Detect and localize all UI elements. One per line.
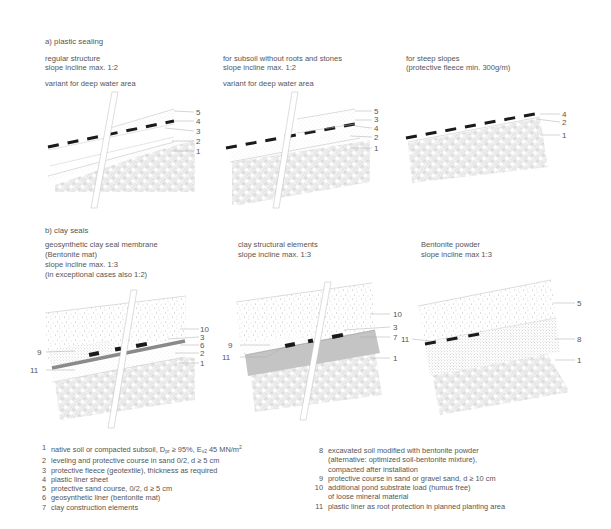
label-3: 3	[196, 127, 201, 136]
legend-right: 8excavated soil modified with bentonite …	[313, 446, 505, 511]
label-9: 9	[37, 348, 42, 357]
legend-item-5: 5protective sand course, 0/2, d ≥ 5 cm	[36, 484, 242, 493]
label-10: 10	[393, 310, 402, 319]
legend-left: 1 native soil or compacted subsoil, Dpr …	[36, 443, 242, 512]
panel-b1-drawing: 10 3 6 2 1 9 11	[30, 290, 209, 428]
label-2: 2	[374, 133, 379, 142]
label-3: 3	[393, 323, 398, 332]
label-1: 1	[562, 131, 567, 140]
label-11: 11	[222, 353, 231, 362]
label-1: 1	[393, 354, 398, 363]
legend-item-7: 7clay construction elements	[36, 503, 242, 512]
label-1: 1	[374, 144, 379, 153]
label-1: 1	[200, 359, 205, 368]
label-7: 7	[393, 333, 398, 342]
panel-a2-drawing: 5 3 4 2 1	[226, 92, 379, 208]
panel-a3-drawing: 4 2 1	[406, 110, 567, 183]
label-11: 11	[401, 335, 410, 344]
label-1: 1	[196, 147, 201, 156]
label-5: 5	[577, 299, 582, 308]
label-4: 4	[196, 117, 201, 126]
label-4: 4	[374, 124, 379, 133]
label-2: 2	[562, 118, 567, 127]
label-1: 1	[577, 356, 582, 365]
label-8: 8	[577, 335, 582, 344]
legend-item-3: 3protective fleece (geotextile), thickne…	[36, 466, 242, 475]
label-5: 5	[196, 108, 201, 117]
panel-b2-drawing: 10 3 7 1 9 11	[222, 282, 402, 420]
panel-a1-drawing: 5 4 3 2 1	[48, 92, 201, 208]
label-9: 9	[228, 341, 233, 350]
panel-b3-drawing: 5 8 1 11	[401, 280, 582, 415]
legend-item-8: 8excavated soil modified with bentonite …	[313, 446, 505, 455]
label-2: 2	[196, 137, 201, 146]
legend-item-2: 2leveling and protective course in sand …	[36, 456, 242, 465]
legend-item-4: 4plastic liner sheet	[36, 475, 242, 484]
label-2: 2	[200, 349, 205, 358]
legend-item-11: 11plastic liner as root protection in pl…	[313, 502, 505, 511]
legend-item-9: 9protective course in sand or gravel san…	[313, 474, 505, 483]
legend-item-6: 6geosynthetic liner (bentonite mat)	[36, 493, 242, 502]
label-3: 3	[374, 115, 379, 124]
legend-item-10: 10additional pond substrate load (humus …	[313, 483, 505, 492]
label-11: 11	[30, 366, 39, 375]
legend-item-1: 1 native soil or compacted subsoil, Dpr …	[36, 443, 242, 456]
